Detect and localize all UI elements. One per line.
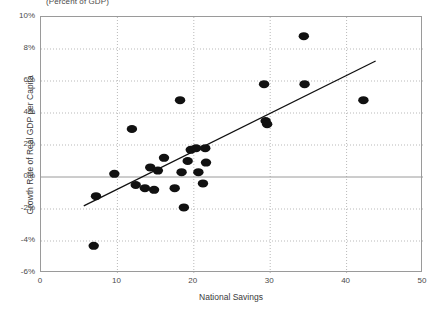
scatter-chart: (Percent of GDP) Growth Rate of Real GDP… — [0, 0, 437, 309]
data-point — [299, 80, 309, 88]
data-point — [191, 144, 201, 152]
x-tick-label: 0 — [25, 276, 55, 285]
data-point — [149, 186, 159, 194]
y-tick-label: 6% — [6, 75, 35, 85]
data-point — [201, 159, 211, 167]
data-point — [175, 96, 185, 104]
y-tick-label: -2% — [6, 203, 35, 213]
y-tick-label: 2% — [6, 139, 35, 149]
data-point — [179, 203, 189, 211]
y-tick-text: -4% — [6, 235, 35, 244]
y-tick-label: 0% — [6, 171, 35, 181]
data-point — [176, 168, 186, 176]
y-tick-text: 10% — [6, 11, 35, 20]
data-point — [153, 167, 163, 175]
data-point — [358, 96, 368, 104]
y-tick-text: -6% — [6, 267, 35, 276]
x-tick-label: 30 — [254, 276, 284, 285]
data-point — [109, 170, 119, 178]
data-point — [182, 157, 192, 165]
data-point — [193, 168, 203, 176]
data-point — [140, 184, 150, 192]
data-point — [299, 32, 309, 40]
data-point — [200, 144, 210, 152]
y-tick-label: 10% — [6, 11, 35, 21]
y-tick-text: 6% — [6, 75, 35, 84]
data-point — [170, 184, 180, 192]
data-point — [259, 80, 269, 88]
x-tick-label: 50 — [407, 276, 437, 285]
data-point — [91, 192, 101, 200]
y-tick-label: 8% — [6, 43, 35, 53]
chart-subtitle: (Percent of GDP) — [46, 0, 109, 6]
data-point — [131, 181, 141, 189]
data-point — [262, 120, 272, 128]
data-point — [127, 125, 137, 133]
x-tick-label: 40 — [331, 276, 361, 285]
y-tick-label: 4% — [6, 107, 35, 117]
y-tick-text: 2% — [6, 139, 35, 148]
plot-area — [40, 16, 422, 272]
x-axis-title: National Savings — [40, 292, 422, 302]
y-tick-text: 0% — [6, 171, 35, 180]
data-point — [89, 242, 99, 250]
data-layer — [41, 17, 423, 273]
data-point — [159, 154, 169, 162]
y-tick-text: 4% — [6, 107, 35, 116]
x-tick-label: 10 — [101, 276, 131, 285]
data-point — [198, 179, 208, 187]
y-tick-text: 8% — [6, 43, 35, 52]
y-tick-label: -4% — [6, 235, 35, 245]
x-tick-label: 20 — [178, 276, 208, 285]
y-tick-text: -2% — [6, 203, 35, 212]
